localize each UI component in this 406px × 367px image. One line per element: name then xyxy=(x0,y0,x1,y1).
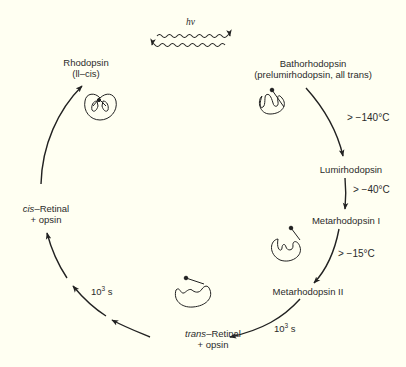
state-cis-retinal-detail: + opsin xyxy=(16,214,76,225)
state-trans-retinal-name: trans–Retinal xyxy=(174,328,252,339)
trans-prefix: trans xyxy=(185,328,206,339)
rhodopsin-cycle-diagram xyxy=(0,0,406,367)
state-metarhodopsin-2-name: Metarhodopsin II xyxy=(262,286,354,297)
arrow-meta1-to-meta2 xyxy=(314,229,339,283)
time-unit: s xyxy=(105,286,112,297)
state-metarhodopsin-1: Metarhodopsin I xyxy=(303,215,389,226)
time-base: 10 xyxy=(91,286,102,297)
light-reverse-wavy-arrow xyxy=(152,44,225,47)
state-bathorhodopsin-detail: (prelumirhodopsin, all trans) xyxy=(243,69,383,80)
arrow-lumi-to-meta1 xyxy=(345,178,346,209)
state-rhodopsin: Rhodopsin (ll–cis) xyxy=(56,57,116,79)
time-base: 10 xyxy=(274,323,285,334)
state-trans-retinal: trans–Retinal + opsin xyxy=(174,328,252,350)
state-lumirhodopsin-name: Lumirhodopsin xyxy=(312,164,390,175)
state-metarhodopsin-2: Metarhodopsin II xyxy=(262,286,354,297)
state-rhodopsin-detail: (ll–cis) xyxy=(56,68,116,79)
bathorhodopsin-protein-icon xyxy=(259,88,284,114)
cis-prefix: cis xyxy=(23,203,35,214)
time-unit: s xyxy=(288,323,295,334)
arrow-cis-retinal-to-rhodopsin xyxy=(41,86,82,184)
arrow-batho-to-lumi xyxy=(306,88,343,156)
retinal-suffix: –Retinal xyxy=(34,203,69,214)
metarhodopsin-1-protein-icon xyxy=(272,226,301,261)
condition-lumi-to-meta1: > −40°C xyxy=(353,184,390,196)
trans-retinal-opsin-protein-icon xyxy=(175,276,210,307)
state-cis-retinal-name: cis–Retinal xyxy=(16,203,76,214)
state-bathorhodopsin-name: Bathorhodopsin xyxy=(243,58,383,69)
arrow-trans-retinal-to-cis-retinal xyxy=(47,233,150,337)
state-cis-retinal: cis–Retinal + opsin xyxy=(16,203,76,225)
time-meta2-to-trans-retinal: 103 s xyxy=(274,323,296,335)
time-trans-to-cis-retinal: 103 s xyxy=(91,286,113,298)
state-lumirhodopsin: Lumirhodopsin xyxy=(312,164,390,175)
light-forward-wavy-arrow xyxy=(157,35,230,38)
state-rhodopsin-name: Rhodopsin xyxy=(56,57,116,68)
state-bathorhodopsin: Bathorhodopsin (prelumirhodopsin, all tr… xyxy=(243,58,383,80)
state-metarhodopsin-1-name: Metarhodopsin I xyxy=(303,215,389,226)
retinal-suffix: –Retinal xyxy=(206,328,241,339)
condition-meta1-to-meta2: > −15°C xyxy=(338,248,375,260)
light-label: hν xyxy=(186,17,195,27)
rhodopsin-protein-icon xyxy=(85,94,117,120)
state-trans-retinal-detail: + opsin xyxy=(174,339,252,350)
condition-batho-to-lumi: > −140°C xyxy=(347,112,389,124)
